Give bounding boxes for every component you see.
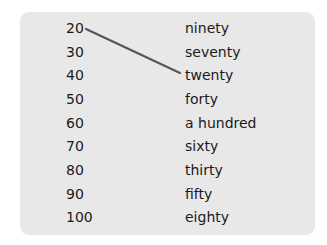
matching-line xyxy=(0,0,327,245)
